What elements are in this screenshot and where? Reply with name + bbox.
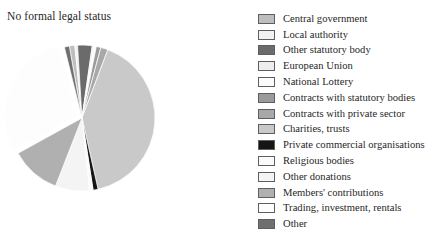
legend-swatch [258, 124, 275, 134]
legend-item: Other statutory body [258, 43, 442, 59]
legend-label: Other [283, 218, 307, 230]
legend-swatch [258, 61, 275, 71]
legend-swatch [258, 188, 275, 198]
legend-swatch [258, 30, 275, 40]
legend-swatch [258, 140, 275, 150]
legend-swatch [258, 93, 275, 103]
legend-item: Trading, investment, rentals [258, 201, 442, 217]
legend-swatch [258, 109, 275, 119]
legend-item: Members' contributions [258, 185, 442, 201]
legend-label: Trading, investment, rentals [283, 202, 401, 214]
legend-label: Members' contributions [283, 187, 383, 199]
legend-label: Central government [283, 13, 367, 25]
legend-label: Religious bodies [283, 155, 354, 167]
legend-item: Contracts with private sector [258, 106, 442, 122]
legend-swatch [258, 219, 275, 229]
legend-swatch [258, 203, 275, 213]
pie-chart-svg [0, 20, 240, 220]
legend-label: Other statutory body [283, 44, 371, 56]
legend-item: Private commercial organisations [258, 137, 442, 153]
legend-item: Other [258, 216, 442, 232]
legend-item: Local authority [258, 27, 442, 43]
legend-item: European Union [258, 58, 442, 74]
pie-chart [0, 20, 240, 220]
legend-swatch [258, 45, 275, 55]
legend-label: Other donations [283, 171, 351, 183]
legend-item: National Lottery [258, 74, 442, 90]
legend-label: National Lottery [283, 76, 353, 88]
pie-slice-group [4, 45, 155, 191]
legend-label: Local authority [283, 29, 348, 41]
legend-item: Central government [258, 11, 442, 27]
legend-item: Religious bodies [258, 153, 442, 169]
legend-label: European Union [283, 60, 353, 72]
legend-label: Private commercial organisations [283, 139, 425, 151]
legend-label: Charities, trusts [283, 123, 350, 135]
legend-item: Charities, trusts [258, 122, 442, 138]
legend-swatch [258, 172, 275, 182]
legend-item: Other donations [258, 169, 442, 185]
legend-label: Contracts with statutory bodies [283, 92, 415, 104]
legend-swatch [258, 156, 275, 166]
chart-legend: Central governmentLocal authorityOther s… [258, 11, 442, 232]
legend-item: Contracts with statutory bodies [258, 90, 442, 106]
legend-label: Contracts with private sector [283, 108, 405, 120]
legend-swatch [258, 77, 275, 87]
legend-swatch [258, 14, 275, 24]
